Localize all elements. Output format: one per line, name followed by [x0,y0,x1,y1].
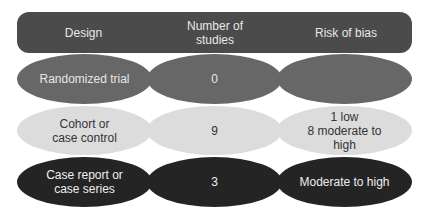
row3-number-cell: 3 [147,157,282,207]
header-number-line1: Number of [187,19,243,33]
row3-design-cell: Case report or case series [17,157,152,207]
row1-risk-cell [277,54,412,104]
row3-risk-label: Moderate to high [299,175,389,189]
row3-design-line2: case series [54,182,115,196]
row2-risk-line1: 1 low [330,110,358,124]
row3-design-line1: Case report or [46,168,123,182]
row1-number-cell: 0 [147,54,282,104]
row2-risk-line3: high [333,138,356,152]
row2-risk-cell: 1 low 8 moderate to high [277,106,412,155]
row2-number-label: 9 [211,124,218,138]
row2-risk-line2: 8 moderate to [307,124,381,138]
row1-design-label: Randomized trial [39,72,129,86]
row3-number-label: 3 [211,175,218,189]
row3-risk-cell: Moderate to high [277,157,412,207]
row2-design-line1: Cohort or [59,117,109,131]
row2-design-line2: case control [52,131,117,145]
header-design-label: Design [65,26,102,40]
row1-design-cell: Randomized trial [17,54,152,104]
header-number-of-studies: Number of studies [150,12,280,53]
header-risk-of-bias: Risk of bias [280,12,412,53]
table-header: Design Number of studies Risk of bias [17,12,412,53]
header-number-line2: studies [196,33,234,47]
row2-design-cell: Cohort or case control [17,106,152,155]
header-design: Design [17,12,150,53]
row2-number-cell: 9 [147,106,282,155]
header-risk-label: Risk of bias [315,26,377,40]
row1-number-label: 0 [211,72,218,86]
